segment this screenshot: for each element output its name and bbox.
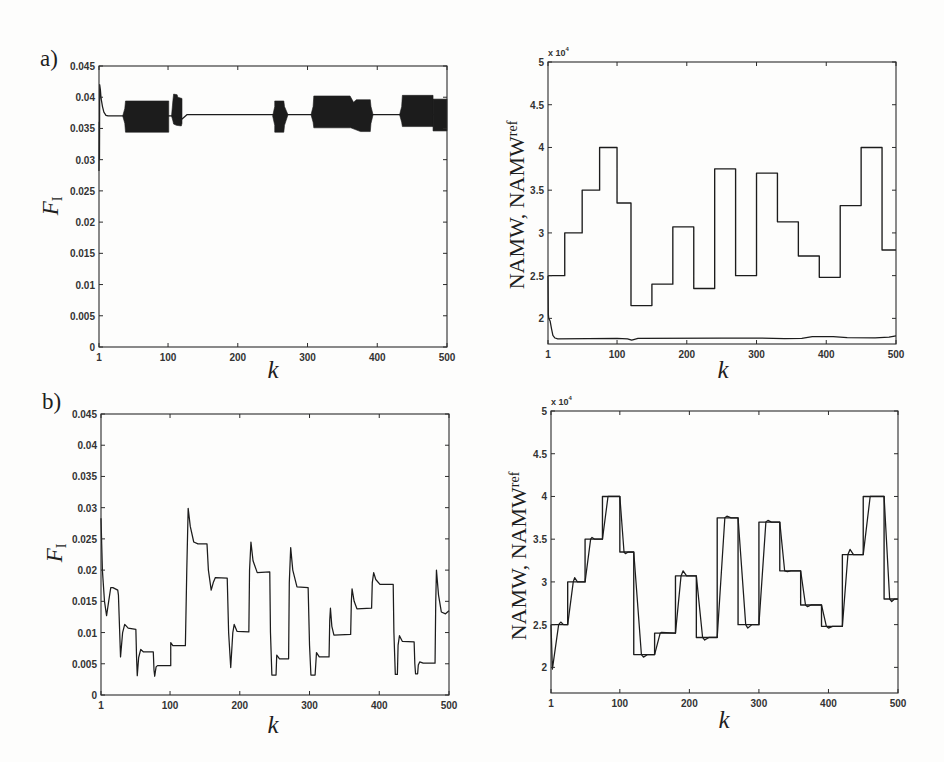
x-tick-label: 500 xyxy=(439,352,456,363)
y-multiplier: x 104 xyxy=(551,396,572,407)
panel-label-b: b) xyxy=(42,390,61,414)
series-fi xyxy=(101,508,449,676)
x-axis-label: k xyxy=(267,357,278,382)
y-tick-label: 0.01 xyxy=(76,279,95,290)
y-axis-label: FI xyxy=(44,544,73,563)
y-tick-label: 0 xyxy=(91,690,97,701)
oscillation-band xyxy=(311,96,373,132)
x-tick-label: 500 xyxy=(890,698,907,709)
x-tick-label: 300 xyxy=(748,349,765,360)
x-tick-label: 100 xyxy=(609,349,626,360)
x-axis-label: k xyxy=(717,357,728,382)
x-tick-label: 100 xyxy=(160,352,177,363)
x-tick-label: 300 xyxy=(301,700,318,711)
y-tick-label: 0.03 xyxy=(76,154,95,165)
x-tick-label: 1 xyxy=(548,698,554,709)
y-tick-label: 0.005 xyxy=(70,310,95,321)
y-tick-label: 2 xyxy=(538,313,544,324)
y-tick-label: 2 xyxy=(541,662,547,673)
y-tick-label: 0.04 xyxy=(78,440,97,451)
x-tick-label: 1 xyxy=(96,352,102,363)
x-tick-label: 200 xyxy=(231,700,248,711)
x-tick-label: 1 xyxy=(98,700,104,711)
y-axis-label-subscript: I xyxy=(50,197,65,202)
y-tick-label: 3 xyxy=(538,227,544,238)
y-tick-label: 2.5 xyxy=(530,270,544,281)
x-tick-label: 300 xyxy=(751,698,768,709)
y-axis-label-main: NAMW, NAMW xyxy=(506,487,531,640)
y-tick-label: 5 xyxy=(541,406,547,417)
plot-area xyxy=(99,66,447,347)
oscillation-band xyxy=(400,95,433,126)
y-axis-label-superscript: ref xyxy=(507,472,522,488)
axes-frame xyxy=(548,62,896,344)
y-tick-label: 0.01 xyxy=(78,627,97,638)
x-tick-label: 400 xyxy=(371,700,388,711)
axes-frame xyxy=(551,411,898,693)
y-tick-label: 0.025 xyxy=(70,185,95,196)
y-tick-label: 3 xyxy=(541,576,547,587)
x-axis-label: k xyxy=(718,707,729,732)
chart-b-namw: x 104 NAMW, NAMWref k 110020030040050022… xyxy=(551,411,898,693)
y-tick-label: 0.03 xyxy=(78,502,97,513)
y-multiplier-base: x 10 xyxy=(551,397,569,407)
chart-a-namw: x 104 NAMW, NAMWref k 110020030040050022… xyxy=(548,62,896,344)
x-tick-label: 200 xyxy=(681,698,698,709)
chart-a-fi: FI k 110020030040050000.0050.010.0150.02… xyxy=(99,66,447,347)
y-multiplier-base: x 10 xyxy=(548,48,566,58)
x-tick-label: 400 xyxy=(369,352,386,363)
y-tick-label: 0.04 xyxy=(76,92,95,103)
x-tick-label: 400 xyxy=(818,349,835,360)
y-tick-label: 0.035 xyxy=(70,123,95,134)
x-tick-label: 100 xyxy=(611,698,628,709)
x-tick-label: 300 xyxy=(299,352,316,363)
y-tick-label: 4.5 xyxy=(533,448,547,459)
oscillation-band xyxy=(273,101,288,132)
y-axis-label-main: F xyxy=(38,201,63,215)
y-tick-label: 3.5 xyxy=(530,185,544,196)
series-namw xyxy=(548,276,896,341)
y-axis-label: FI xyxy=(40,197,69,216)
y-multiplier-exponent: 4 xyxy=(569,395,572,401)
y-tick-label: 4 xyxy=(541,491,547,502)
x-tick-label: 1 xyxy=(545,349,551,360)
oscillation-band xyxy=(172,94,182,126)
y-tick-label: 4.5 xyxy=(530,99,544,110)
y-tick-label: 3.5 xyxy=(533,534,547,545)
x-tick-label: 500 xyxy=(888,349,905,360)
x-tick-label: 200 xyxy=(229,352,246,363)
y-tick-label: 0.005 xyxy=(72,658,97,669)
chart-b-fi: FI k 110020030040050000.0050.010.0150.02… xyxy=(101,414,449,695)
x-tick-label: 100 xyxy=(162,700,179,711)
y-tick-label: 0.045 xyxy=(70,61,95,72)
series-namw-ref xyxy=(548,147,896,305)
y-tick-label: 0.035 xyxy=(72,471,97,482)
y-axis-label-main: NAMW, NAMW xyxy=(504,136,529,289)
panel-label-a: a) xyxy=(40,47,58,71)
y-axis-label: NAMW, NAMWref xyxy=(502,121,528,290)
plot-area xyxy=(551,411,898,693)
y-tick-label: 0.02 xyxy=(76,217,95,228)
plot-area xyxy=(548,62,896,344)
x-tick-label: 500 xyxy=(441,700,458,711)
y-multiplier: x 104 xyxy=(548,47,569,58)
y-tick-label: 0.015 xyxy=(72,596,97,607)
y-tick-label: 0.015 xyxy=(70,248,95,259)
y-tick-label: 0.025 xyxy=(72,533,97,544)
x-tick-label: 200 xyxy=(678,349,695,360)
y-axis-label: NAMW, NAMWref xyxy=(504,472,530,641)
y-tick-label: 4 xyxy=(538,142,544,153)
y-tick-label: 0.02 xyxy=(78,565,97,576)
x-axis-label: k xyxy=(267,712,278,737)
y-tick-label: 5 xyxy=(538,57,544,68)
y-axis-label-main: F xyxy=(42,548,67,562)
plot-area xyxy=(101,414,449,695)
y-axis-label-subscript: I xyxy=(54,544,69,549)
y-axis-label-superscript: ref xyxy=(505,121,520,137)
y-multiplier-exponent: 4 xyxy=(566,46,569,52)
y-tick-label: 0 xyxy=(89,342,95,353)
x-tick-label: 400 xyxy=(820,698,837,709)
y-tick-label: 0.045 xyxy=(72,409,97,420)
y-tick-label: 2.5 xyxy=(533,619,547,630)
